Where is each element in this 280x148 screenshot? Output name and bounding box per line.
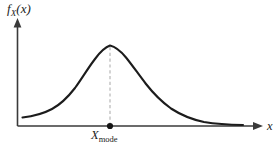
density-figure: fX(x) x Xmode bbox=[0, 0, 280, 148]
plot-canvas bbox=[0, 0, 280, 148]
mode-label-subscript: mode bbox=[99, 134, 118, 144]
mode-label: Xmode bbox=[91, 129, 118, 143]
x-axis-arrowhead bbox=[253, 122, 263, 130]
density-curve-path bbox=[23, 46, 244, 125]
mode-label-variable: X bbox=[91, 128, 99, 142]
y-axis-arrowhead bbox=[14, 18, 22, 28]
y-axis-label-argument: (x) bbox=[16, 1, 30, 16]
x-axis-label: x bbox=[267, 120, 273, 133]
y-axis-label: fX(x) bbox=[7, 2, 31, 18]
